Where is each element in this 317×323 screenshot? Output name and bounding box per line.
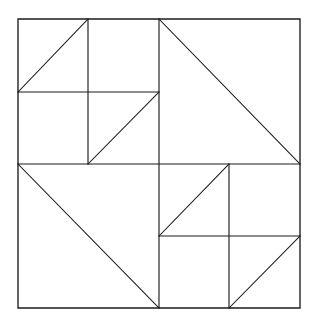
geometric-figure — [0, 0, 317, 323]
